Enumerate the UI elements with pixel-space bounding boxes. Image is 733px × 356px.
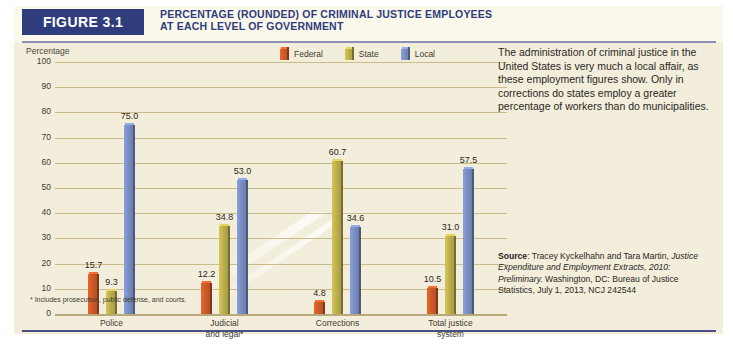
bar-face <box>219 226 228 314</box>
bar-face <box>332 161 341 314</box>
y-axis-tick: 80 <box>25 106 51 116</box>
bar-local: 75.0 <box>124 125 135 314</box>
bar-face <box>201 283 210 314</box>
bar-local: 34.6 <box>350 227 361 314</box>
y-axis-title: Percentage <box>26 46 69 56</box>
bar-side <box>436 288 438 314</box>
bar-group: 15.79.375.0 <box>88 62 135 314</box>
bar-federal: 10.5 <box>427 288 438 314</box>
bar-group: 10.531.057.5 <box>427 62 474 314</box>
bar-top <box>315 300 324 302</box>
bar-state: 60.7 <box>332 161 343 314</box>
y-axis-tick: 30 <box>25 232 51 242</box>
bar-value-label: 31.0 <box>442 222 460 232</box>
y-axis-tick: 70 <box>25 132 51 142</box>
bar-top <box>428 286 437 288</box>
bar-top <box>107 289 116 291</box>
x-axis-label-line-1: Police <box>57 318 167 329</box>
y-axis-tick: 40 <box>25 207 51 217</box>
y-axis-tick: 0 <box>25 308 51 318</box>
figure-title: PERCENTAGE (ROUNDED) OF CRIMINAL JUSTICE… <box>160 8 560 32</box>
x-axis-label: Police <box>57 318 167 329</box>
x-axis-label-line-1: Corrections <box>283 318 393 329</box>
commentary-text: The administration of criminal justice i… <box>498 46 712 114</box>
bar-top <box>446 234 455 236</box>
bar-value-label: 75.0 <box>121 111 139 121</box>
bar-face <box>88 274 97 314</box>
bar-side <box>246 180 248 314</box>
bar-local: 57.5 <box>463 169 474 314</box>
page-margin-right <box>723 0 733 356</box>
bar-federal: 12.2 <box>201 283 212 314</box>
bar-state: 34.8 <box>219 226 230 314</box>
side-text-panel: The administration of criminal justice i… <box>498 46 712 316</box>
bar-top <box>125 123 134 125</box>
bar-side <box>359 227 361 314</box>
plot-area: 010203040506070809010015.79.375.0Police1… <box>55 62 507 314</box>
bar-top <box>202 281 211 283</box>
y-axis-tick: 50 <box>25 182 51 192</box>
x-axis-label: Judicialand legal* <box>170 318 280 339</box>
bar-top <box>464 167 473 169</box>
bar-top <box>238 178 247 180</box>
bar-value-label: 57.5 <box>460 155 478 165</box>
bar-face <box>463 169 472 314</box>
bar-side <box>454 236 456 314</box>
bar-side <box>97 274 99 314</box>
bar-top <box>351 225 360 227</box>
bar-side <box>133 125 135 314</box>
bar-face <box>427 288 436 314</box>
source-label: Source <box>498 251 527 261</box>
bar-value-label: 9.3 <box>105 277 118 287</box>
bar-state: 31.0 <box>445 236 456 314</box>
source-authors: : Tracey Kyckelhahn and Tara Martin, <box>527 251 671 261</box>
bar-group: 12.234.853.0 <box>201 62 248 314</box>
y-axis-tick: 20 <box>25 258 51 268</box>
figure-title-line-2: AT EACH LEVEL OF GOVERNMENT <box>160 20 560 32</box>
gridline <box>55 314 507 316</box>
bar-federal: 15.7 <box>88 274 99 314</box>
bar-face <box>314 302 323 314</box>
bar-face <box>237 180 246 314</box>
chart-panel: Percentage 010203040506070809010015.79.3… <box>22 46 484 314</box>
bar-value-label: 4.8 <box>313 288 326 298</box>
bar-value-label: 15.7 <box>85 260 103 270</box>
chart-footnote: * Includes prosecution, public defense, … <box>30 296 186 303</box>
bar-side <box>210 283 212 314</box>
bar-value-label: 34.8 <box>216 212 234 222</box>
y-axis-tick: 60 <box>25 157 51 167</box>
x-axis-label-line-1: Judicial <box>170 318 280 329</box>
bar-value-label: 53.0 <box>234 166 252 176</box>
bar-face <box>350 227 359 314</box>
figure-card: FIGURE 3.1 PERCENTAGE (ROUNDED) OF CRIMI… <box>0 0 733 356</box>
bar-face <box>124 125 133 314</box>
x-axis-label-line-1: Total justice <box>396 318 506 329</box>
bar-side <box>323 302 325 314</box>
y-axis-tick: 100 <box>25 56 51 66</box>
bar-side <box>472 169 474 314</box>
bar-value-label: 12.2 <box>198 269 216 279</box>
y-axis-tick: 90 <box>25 81 51 91</box>
y-axis-tick: 10 <box>25 283 51 293</box>
figure-title-line-1: PERCENTAGE (ROUNDED) OF CRIMINAL JUSTICE… <box>160 8 560 20</box>
bar-top <box>220 224 229 226</box>
source-citation: Source: Tracey Kyckelhahn and Tara Marti… <box>498 251 712 297</box>
figure-bottom-divider <box>22 330 716 332</box>
page-margin-bottom <box>0 334 733 356</box>
bar-side <box>228 226 230 314</box>
bar-local: 53.0 <box>237 180 248 314</box>
bar-side <box>341 161 343 314</box>
bar-top <box>333 159 342 161</box>
bar-value-label: 60.7 <box>329 147 347 157</box>
page-margin-left <box>0 0 14 356</box>
x-axis-label: Corrections <box>283 318 393 329</box>
bar-value-label: 34.6 <box>347 213 365 223</box>
bar-value-label: 10.5 <box>424 274 442 284</box>
header-divider <box>22 41 716 43</box>
x-axis-label: Total justicesystem <box>396 318 506 339</box>
bar-top <box>89 272 98 274</box>
bar-federal: 4.8 <box>314 302 325 314</box>
bar-face <box>445 236 454 314</box>
bar-group: 4.860.734.6 <box>314 62 361 314</box>
figure-number-badge: FIGURE 3.1 <box>22 9 144 35</box>
